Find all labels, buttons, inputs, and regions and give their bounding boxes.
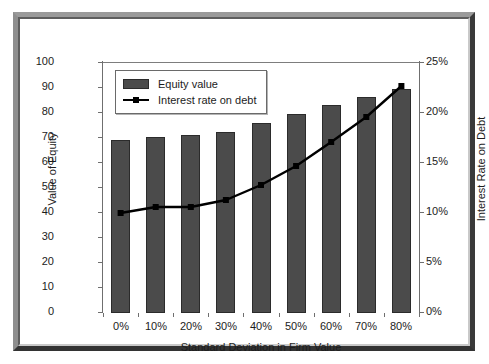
right-axis-line: [419, 61, 420, 313]
legend-label-equity-value: Equity value: [158, 78, 218, 90]
x-axis-tick: [384, 313, 385, 317]
legend-item-interest-rate-on-debt: Interest rate on debt: [123, 92, 256, 108]
left-axis-tick: [98, 112, 102, 113]
left-axis-tick: [98, 62, 102, 63]
x-axis-title: Standard Deviation in Firm Value: [103, 341, 419, 353]
left-axis-tick: [98, 262, 102, 263]
left-axis-tick: [98, 312, 102, 313]
left-axis-tick: [98, 137, 102, 138]
x-axis-tick: [349, 313, 350, 317]
left-axis-tick-label: 10: [42, 281, 54, 292]
x-axis-tick: [243, 313, 244, 317]
right-axis-tick: [420, 162, 424, 163]
legend-item-equity-value: Equity value: [123, 76, 256, 92]
chart-legend: Equity value Interest rate on debt: [115, 70, 267, 114]
x-axis-tick: [173, 313, 174, 317]
right-axis-tick: [420, 262, 424, 263]
bar: [252, 123, 271, 313]
right-axis-tick-label: 5%: [426, 256, 442, 267]
picture-frame-inner-bevel: 0102030405060708090100 0%5%10%15%20%25% …: [18, 17, 470, 346]
picture-frame: 0102030405060708090100 0%5%10%15%20%25% …: [13, 12, 475, 351]
right-axis-tick: [420, 212, 424, 213]
right-axis-tick-label: 25%: [426, 56, 448, 67]
left-axis-tick-label: 0: [48, 306, 54, 317]
x-axis-tick: [208, 313, 209, 317]
right-axis-title: Interest Rate on Debt: [475, 79, 487, 259]
bar: [111, 140, 130, 313]
right-axis-tick: [420, 112, 424, 113]
chart-figure: 0102030405060708090100 0%5%10%15%20%25% …: [0, 0, 489, 364]
bar: [357, 97, 376, 313]
left-axis-tick-label: 100: [36, 56, 54, 67]
x-axis-tick-label: 80%: [378, 320, 424, 332]
x-axis-tick: [314, 313, 315, 317]
x-axis-tick: [279, 313, 280, 317]
left-axis-tick: [98, 287, 102, 288]
left-axis-tick-label: 20: [42, 256, 54, 267]
x-axis-tick: [138, 313, 139, 317]
x-axis-tick: [419, 313, 420, 317]
right-axis-tick: [420, 62, 424, 63]
left-axis-tick: [98, 212, 102, 213]
left-axis-title: Value of Equity: [46, 89, 58, 249]
legend-bar-swatch-icon: [123, 79, 149, 89]
right-axis-tick-label: 0%: [426, 306, 442, 317]
legend-line-swatch-icon: [123, 95, 149, 105]
left-axis-tick: [98, 237, 102, 238]
left-axis-tick: [98, 162, 102, 163]
right-axis-tick: [420, 312, 424, 313]
right-axis-tick-label: 20%: [426, 106, 448, 117]
legend-label-interest-rate-on-debt: Interest rate on debt: [158, 94, 256, 106]
right-axis-tick-label: 10%: [426, 206, 448, 217]
bar: [146, 137, 165, 313]
bar: [216, 132, 235, 313]
plot-area: Equity value Interest rate on debt: [103, 62, 419, 313]
x-axis-tick: [103, 313, 104, 317]
bar: [287, 114, 306, 313]
left-axis-tick: [98, 187, 102, 188]
bar: [392, 89, 411, 313]
bar: [322, 105, 341, 313]
right-axis-tick-label: 15%: [426, 156, 448, 167]
bar: [181, 135, 200, 313]
left-axis-tick: [98, 87, 102, 88]
